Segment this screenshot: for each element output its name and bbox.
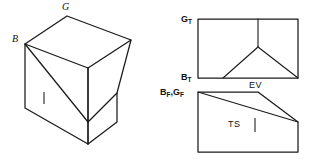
isometric-pictorial: G B xyxy=(12,1,131,144)
top-view-caption-ev: EV xyxy=(249,80,262,90)
top-view-right-slant-line xyxy=(258,47,298,78)
front-view-label-bfgf: BF,GF xyxy=(160,87,184,98)
top-orthographic-view: GT BT EV xyxy=(181,14,298,90)
front-view-outline xyxy=(198,92,298,152)
iso-right-incline-edge xyxy=(88,40,131,122)
top-view-label-bt: BT xyxy=(181,72,192,83)
front-orthographic-view: BF,GF TS xyxy=(160,87,298,152)
iso-top-face-edge xyxy=(25,16,131,68)
iso-label-g: G xyxy=(62,1,69,12)
front-view-slant-line xyxy=(198,92,298,122)
iso-label-b: B xyxy=(12,33,18,44)
front-view-caption-ts: TS xyxy=(228,119,241,129)
top-view-label-gt: GT xyxy=(181,14,192,25)
top-view-box xyxy=(198,19,298,78)
iso-left-face-edge xyxy=(25,44,88,144)
technical-drawing-svg: G B GT BT EV xyxy=(0,0,312,159)
top-view-left-slant-line xyxy=(223,47,258,78)
figure-root: G B GT BT EV xyxy=(0,0,312,159)
